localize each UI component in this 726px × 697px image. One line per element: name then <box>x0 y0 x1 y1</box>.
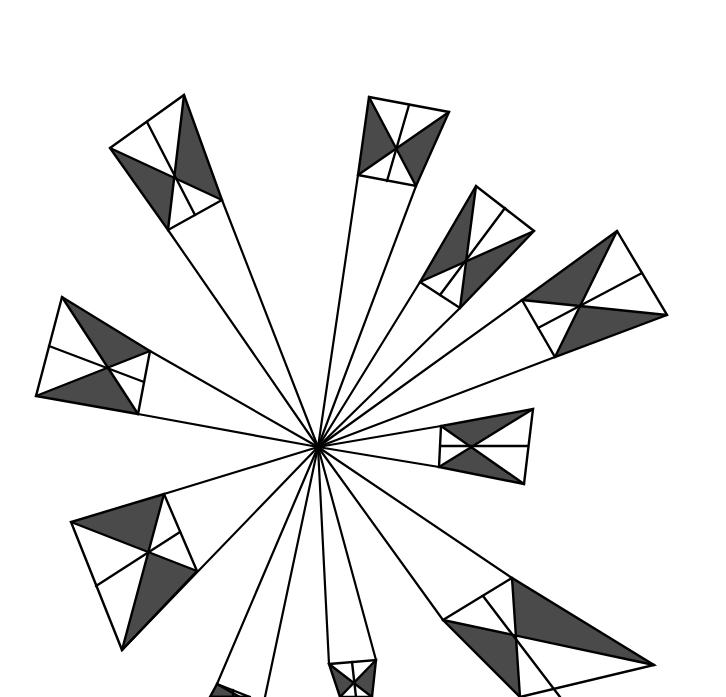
ray-line <box>318 447 443 620</box>
ray-line <box>217 447 318 684</box>
ray-line <box>318 357 555 447</box>
kite-outlines <box>36 95 667 697</box>
ray-line <box>318 186 416 447</box>
kite-right-mid-shade-b <box>441 409 533 447</box>
ray-line <box>265 447 318 697</box>
ray-line <box>318 175 358 447</box>
ray-line <box>222 200 318 447</box>
ray-line <box>318 447 439 467</box>
ray-line <box>318 282 420 447</box>
kite-right-mid-shade-a <box>439 447 524 484</box>
shaded-triangles <box>36 95 667 697</box>
pinwheel-figure <box>0 0 726 697</box>
ray-line <box>168 230 318 447</box>
